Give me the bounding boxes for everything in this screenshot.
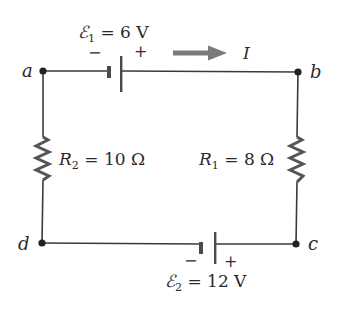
r2-subscript: 2 — [72, 159, 79, 172]
node-c-dot — [292, 240, 299, 247]
circuit-diagram: a b c d I ℰ1 = 6 V − + R2 = 10 Ω R1 = 8 … — [0, 0, 337, 310]
battery1-negative-plate — [107, 66, 111, 78]
resistor-r2-zigzag — [36, 137, 49, 180]
node-b-dot — [294, 68, 301, 75]
node-a-label: a — [22, 60, 33, 81]
left-wire — [42, 71, 43, 243]
r1-symbol: R — [198, 149, 212, 169]
r2-value: 10 Ω — [104, 149, 145, 169]
emf2-value: 12 V — [207, 271, 247, 291]
right-wire — [296, 72, 298, 244]
node-a-dot — [39, 67, 46, 74]
r1-label: R1 = 8 Ω — [198, 149, 274, 172]
resistor-r1-zigzag — [290, 137, 303, 182]
current-arrow-icon — [173, 46, 227, 61]
battery-emf2 — [199, 232, 216, 264]
current-label: I — [242, 43, 250, 63]
battery2-negative-plate — [199, 242, 203, 254]
emf2-label: ℰ2 = 12 V — [165, 271, 247, 294]
battery2-positive-plate — [214, 232, 216, 264]
r1-equals: = — [219, 149, 244, 169]
emf2-plus-sign: + — [224, 252, 237, 271]
node-b-label: b — [310, 61, 322, 82]
bottom-wire — [42, 243, 296, 244]
node-d-label: d — [18, 233, 30, 254]
emf1-equals: = — [95, 22, 120, 42]
r2-label: R2 = 10 Ω — [58, 149, 145, 172]
battery-emf1 — [107, 56, 122, 92]
node-c-label: c — [308, 233, 318, 254]
node-d-dot — [38, 239, 45, 246]
emf1-value: 6 V — [120, 22, 149, 42]
battery1-positive-plate — [120, 56, 122, 92]
r1-value: 8 Ω — [244, 149, 274, 169]
r1-subscript: 1 — [212, 159, 219, 172]
r2-equals: = — [79, 149, 104, 169]
emf1-plus-sign: + — [134, 42, 147, 61]
circuit-svg: a b c d I ℰ1 = 6 V − + R2 = 10 Ω R1 = 8 … — [0, 0, 337, 310]
emf1-minus-sign: − — [88, 43, 101, 62]
emf2-minus-sign: − — [184, 251, 197, 270]
r2-symbol: R — [58, 149, 72, 169]
emf2-subscript: 2 — [175, 281, 182, 294]
emf2-equals: = — [182, 271, 207, 291]
top-wire — [43, 71, 298, 72]
